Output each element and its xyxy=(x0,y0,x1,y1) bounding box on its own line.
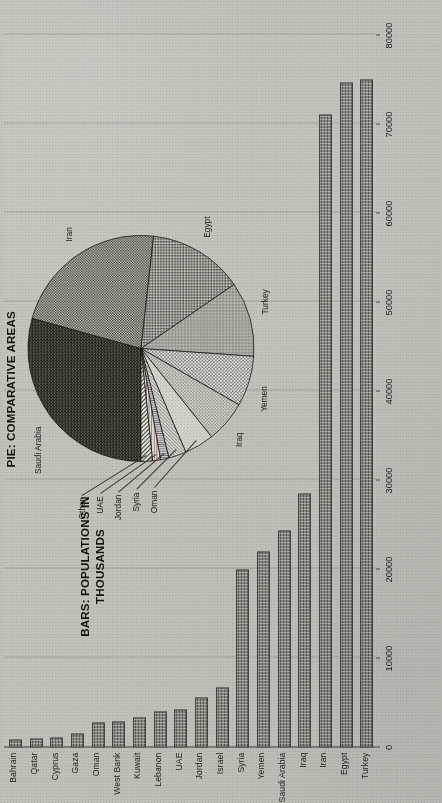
bar-label-iraq: Iraq xyxy=(298,752,308,803)
bar-yemen xyxy=(257,551,270,747)
x-axis-tick-40000: 40000 xyxy=(383,378,394,404)
bar-israel xyxy=(216,687,229,747)
bar-label-jordan: Jordan xyxy=(194,752,204,803)
bar-gaza xyxy=(71,733,84,747)
bar-iran xyxy=(319,114,332,747)
pie-label-iran: Iran xyxy=(64,227,74,241)
bar-label-iran: Iran xyxy=(318,752,328,803)
scanned-figure-canvas: BahrainQatarCyprusGazaOmanWest BankKuwai… xyxy=(0,0,442,803)
bar-label-israel: Israel xyxy=(215,752,225,803)
bar-lebanon xyxy=(154,711,167,747)
bar-west-bank xyxy=(112,721,125,747)
bar-label-cyprus: Cyprus xyxy=(50,752,60,803)
x-axis-tick-mark xyxy=(376,746,380,747)
bar-label-gaza: Gaza xyxy=(70,752,80,803)
bar-label-turkey: Turkey xyxy=(360,752,370,803)
pie-label-iraq: Iraq xyxy=(234,432,244,446)
x-axis-tick-mark xyxy=(376,479,380,480)
x-axis-tick-mark xyxy=(376,123,380,124)
bar-saudi-arabia xyxy=(278,530,291,747)
x-axis-tick-mark xyxy=(376,568,380,569)
bar-label-kuwait: Kuwait xyxy=(132,752,142,803)
bar-label-qatar: Qatar xyxy=(29,752,39,803)
x-axis-tick-mark xyxy=(376,301,380,302)
pie-label-saudi-arabia: Saudi Arabia xyxy=(33,426,43,474)
pie-label-oman: Oman xyxy=(149,490,159,513)
x-axis-tick-0: 0 xyxy=(383,744,394,749)
bar-label-syria: Syria xyxy=(236,752,246,803)
x-axis-tick-80000: 80000 xyxy=(383,22,394,48)
bar-iraq xyxy=(298,493,311,747)
bar-oman xyxy=(92,722,105,747)
x-axis-tick-20000: 20000 xyxy=(383,556,394,582)
x-axis-tick-30000: 30000 xyxy=(383,467,394,493)
x-axis-tick-60000: 60000 xyxy=(383,200,394,226)
pie-label-turkey: Turkey xyxy=(260,289,270,314)
pie-label-egypt: Egypt xyxy=(202,216,212,237)
pie-label-jordan: Jordan xyxy=(113,494,123,520)
x-axis-tick-50000: 50000 xyxy=(383,289,394,315)
bar-syria xyxy=(236,569,249,747)
pie-label-other: Other xyxy=(77,498,87,519)
x-axis-tick-70000: 70000 xyxy=(383,111,394,137)
bar-label-yemen: Yemen xyxy=(256,752,266,803)
pie-label-yemen: Yemen xyxy=(259,386,269,412)
grid-line xyxy=(4,33,376,34)
bar-label-west-bank: West Bank xyxy=(112,752,122,803)
x-axis-tick-mark xyxy=(376,390,380,391)
bar-turkey xyxy=(360,79,373,747)
bar-bahrain xyxy=(9,739,22,747)
pie-chart-svg xyxy=(16,223,266,473)
bar-jordan xyxy=(195,697,208,747)
x-axis-tick-10000: 10000 xyxy=(383,645,394,671)
bar-qatar xyxy=(30,738,43,747)
x-axis-tick-mark xyxy=(376,657,380,658)
x-axis-tick-mark xyxy=(376,212,380,213)
bar-label-lebanon: Lebanon xyxy=(153,752,163,803)
bar-label-egypt: Egypt xyxy=(339,752,349,803)
bar-label-bahrain: Bahrain xyxy=(8,752,18,803)
x-axis-tick-mark xyxy=(376,34,380,35)
pie-chart xyxy=(16,223,266,473)
pie-label-syria: Syria xyxy=(131,492,141,511)
bar-label-saudi-arabia: Saudi Arabia xyxy=(277,752,287,803)
bar-uae xyxy=(174,709,187,747)
bar-egypt xyxy=(340,82,353,747)
pie-label-uae: UAE xyxy=(95,496,105,513)
bar-label-uae: UAE xyxy=(174,752,184,803)
bar-cyprus xyxy=(50,737,63,747)
bar-kuwait xyxy=(133,717,146,747)
bar-label-oman: Oman xyxy=(91,752,101,803)
